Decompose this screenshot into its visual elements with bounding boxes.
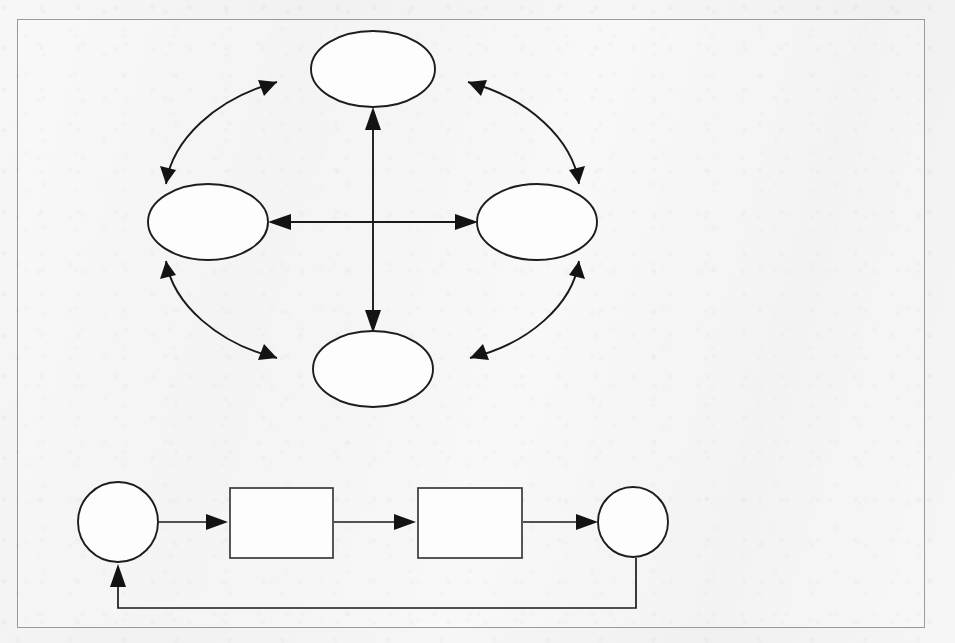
figure-border xyxy=(17,19,925,628)
scanned-page xyxy=(0,0,955,643)
